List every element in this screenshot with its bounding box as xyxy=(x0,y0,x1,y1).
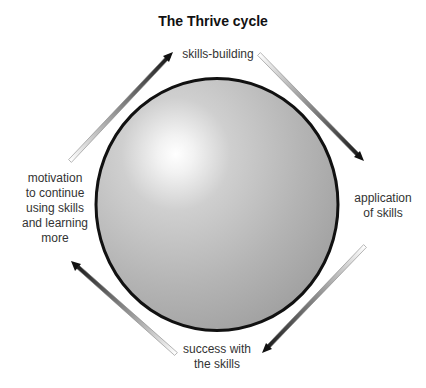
label-line: and learning xyxy=(0,216,110,231)
label-line: more xyxy=(0,231,110,246)
sphere xyxy=(96,79,338,331)
label-line: application xyxy=(340,191,426,206)
stage-label-application-of-skills: application of skills xyxy=(340,191,426,221)
label-line: using skills xyxy=(0,201,110,216)
stage-label-motivation: motivation to continue using skills and … xyxy=(0,171,110,246)
label-line: to continue xyxy=(0,186,110,201)
stage-label-skills-building: skills-building xyxy=(173,47,263,62)
label-line: the skills xyxy=(167,357,267,372)
label-line: success with xyxy=(167,342,267,357)
label-line: motivation xyxy=(0,171,110,186)
label-line: of skills xyxy=(340,206,426,221)
stage-label-success-with-skills: success with the skills xyxy=(167,342,267,372)
